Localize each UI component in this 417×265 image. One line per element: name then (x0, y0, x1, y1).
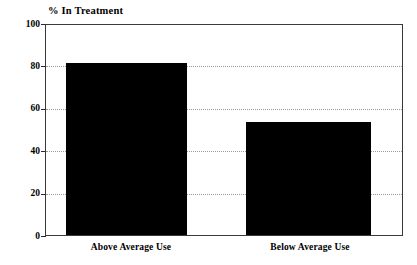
y-axis-tick-label-40: 40 (0, 146, 40, 156)
y-axis-tick-label-100: 100 (0, 19, 40, 29)
bar-below-average-use (246, 122, 371, 235)
y-axis-tick-label-20: 20 (0, 188, 40, 198)
chart-title: % In Treatment (48, 4, 123, 17)
bar-chart: % In Treatment 100 80 60 40 20 0 Above A… (0, 0, 417, 265)
x-axis-label-above-average-use: Above Average Use (36, 241, 226, 253)
y-axis-tick-label-0: 0 (0, 231, 40, 241)
y-axis-tick-label-80: 80 (0, 61, 40, 71)
bar-above-average-use (66, 63, 187, 235)
plot-area (45, 24, 403, 236)
y-axis-tick-mark-0 (41, 236, 46, 237)
x-axis-label-below-average-use: Below Average Use (215, 241, 405, 253)
y-axis-tick-label-60: 60 (0, 103, 40, 113)
